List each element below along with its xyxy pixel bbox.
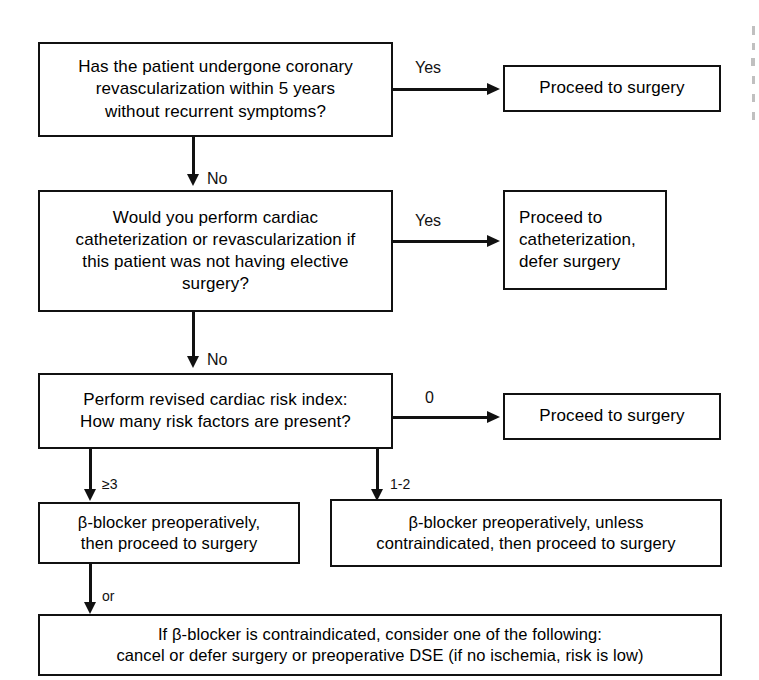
edge-label-b1-or: or	[102, 589, 114, 603]
edge-q3-three-plus-line	[89, 449, 92, 492]
outcome-node-proceed-surgery-2: Proceed to surgery	[503, 393, 721, 440]
scan-margin-fragment	[752, 112, 755, 120]
scan-margin-fragment	[752, 76, 755, 84]
decision-node-risk-index-label: Perform revised cardiac risk index: How …	[46, 389, 385, 433]
edge-label-q3-one-two: 1-2	[390, 477, 410, 491]
edge-q3-zero-line	[393, 416, 489, 419]
decision-node-risk-index: Perform revised cardiac risk index: How …	[38, 373, 393, 449]
outcome-node-proceed-surgery-2-label: Proceed to surgery	[511, 405, 713, 427]
flowchart-canvas: Has the patient undergone coronary revas…	[0, 0, 759, 680]
edge-q1-yes-line	[393, 88, 489, 91]
edge-q2-no-line	[192, 312, 195, 360]
scan-margin-fragment	[752, 94, 755, 102]
edge-q3-three-plus-arrowhead	[84, 489, 96, 501]
edge-label-q2-yes: Yes	[415, 213, 441, 229]
decision-node-revascularization: Has the patient undergone coronary revas…	[38, 42, 393, 137]
action-node-betablocker-preop: β-blocker preoperatively, then proceed t…	[38, 502, 300, 564]
decision-node-catheterization: Would you perform cardiac catheterizatio…	[38, 190, 393, 312]
decision-node-revascularization-label: Has the patient undergone coronary revas…	[46, 56, 385, 122]
scan-margin-fragment	[752, 26, 755, 35]
action-node-betablocker-unless-contraindicated-label: β-blocker preoperatively, unless contrai…	[338, 512, 714, 555]
edge-q3-zero-arrowhead	[487, 411, 500, 423]
action-node-betablocker-contraindicated-label: If β-blocker is contraindicated, conside…	[46, 624, 714, 667]
edge-b1-or-arrowhead	[84, 602, 96, 614]
edge-label-q1-yes: Yes	[415, 60, 441, 76]
scan-margin-fragment	[752, 43, 755, 50]
edge-q1-no-arrowhead	[187, 174, 199, 186]
scan-margin-fragment	[751, 58, 755, 66]
action-node-betablocker-unless-contraindicated: β-blocker preoperatively, unless contrai…	[330, 499, 722, 567]
outcome-node-proceed-catheterization-label: Proceed to catheterization, defer surger…	[511, 207, 659, 273]
edge-label-q3-three-plus: ≥3	[102, 477, 117, 491]
edge-label-q1-no: No	[207, 171, 227, 187]
outcome-node-proceed-surgery-1-label: Proceed to surgery	[511, 77, 713, 99]
outcome-node-proceed-surgery-1: Proceed to surgery	[503, 65, 721, 112]
edge-q2-yes-arrowhead	[487, 235, 500, 247]
edge-label-q3-zero: 0	[425, 390, 434, 406]
action-node-betablocker-preop-label: β-blocker preoperatively, then proceed t…	[46, 512, 292, 555]
edge-q2-yes-line	[393, 240, 489, 243]
action-node-betablocker-contraindicated: If β-blocker is contraindicated, conside…	[38, 614, 722, 676]
edge-q1-no-line	[192, 137, 195, 177]
outcome-node-proceed-catheterization: Proceed to catheterization, defer surger…	[503, 190, 667, 290]
edge-q1-yes-arrowhead	[487, 83, 500, 95]
edge-q3-one-two-line	[376, 449, 379, 492]
decision-node-catheterization-label: Would you perform cardiac catheterizatio…	[46, 207, 385, 295]
edge-b1-or-line	[89, 564, 92, 606]
edge-q2-no-arrowhead	[187, 356, 199, 368]
edge-label-q2-no: No	[207, 352, 227, 368]
